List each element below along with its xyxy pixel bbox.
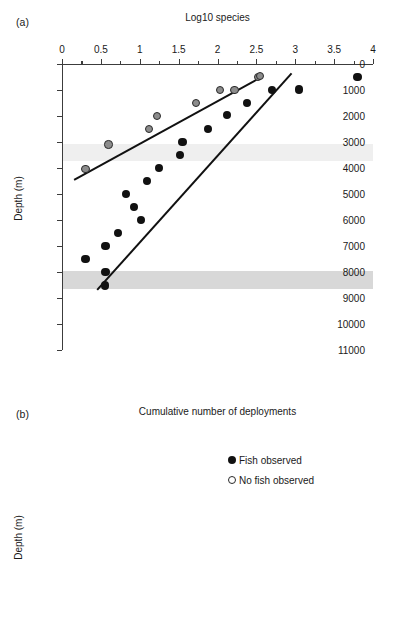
x-tick (295, 59, 296, 64)
x-tick-label: 0.5 (94, 44, 108, 55)
data-point (153, 112, 161, 120)
x-tick-label: 2.5 (249, 44, 263, 55)
legend-label: No fish observed (239, 475, 314, 486)
y-tick-label: 6000 (343, 215, 365, 226)
data-point (114, 229, 122, 237)
y-tick (57, 324, 62, 325)
x-tick-label: 1 (137, 44, 143, 55)
y-tick (57, 220, 62, 221)
y-tick-label: 10000 (337, 319, 365, 330)
y-tick (57, 350, 62, 351)
legend-label: Fish observed (239, 455, 302, 466)
x-tick-minor (198, 61, 199, 65)
y-tick-label: 8000 (343, 267, 365, 278)
y-tick-label: 5000 (343, 189, 365, 200)
data-point (223, 111, 231, 119)
y-tick-label: 11000 (338, 345, 365, 356)
y-tick (57, 194, 62, 195)
x-tick (334, 59, 335, 64)
panel-b-legend: Fish observedNo fish observed (228, 454, 314, 494)
x-tick (179, 59, 180, 64)
y-tick-label: 3000 (343, 137, 365, 148)
y-tick-label: 7000 (343, 241, 365, 252)
legend-item: No fish observed (228, 474, 314, 486)
data-point (230, 86, 238, 94)
y-tick (57, 272, 62, 273)
data-point (216, 86, 224, 94)
data-point (81, 165, 89, 173)
y-tick (57, 116, 62, 117)
y-tick (57, 142, 62, 143)
panel-a-y-axis-label: Depth (m) (13, 159, 24, 239)
x-tick-minor (276, 61, 277, 65)
x-tick (62, 59, 63, 64)
panel-b: (b) Cumulative number of deployments Dep… (0, 400, 399, 640)
panel-a-y-axis-line (62, 64, 63, 350)
x-tick (101, 59, 102, 64)
x-tick-minor (81, 61, 82, 65)
panel-a: (a) Log10 species Depth (m) 00.511.522.5… (0, 0, 399, 400)
y-tick-label: 9000 (343, 293, 365, 304)
x-tick (373, 59, 374, 64)
panel-b-x-axis-title: Cumulative number of deployments (62, 406, 373, 417)
x-tick-minor (237, 61, 238, 65)
data-point (192, 99, 200, 107)
x-tick (218, 59, 219, 64)
y-tick-label: 4000 (343, 163, 365, 174)
data-point (178, 138, 186, 146)
data-point (101, 242, 109, 250)
data-point (130, 203, 138, 211)
x-tick (140, 59, 141, 64)
data-point (295, 85, 303, 93)
data-point (256, 72, 264, 80)
data-point (143, 177, 151, 185)
y-tick (57, 64, 62, 65)
y-tick (57, 90, 62, 91)
panel-a-x-axis-title: Log10 species (62, 12, 373, 23)
legend-item: Fish observed (228, 454, 314, 466)
x-tick-label: 4 (370, 44, 376, 55)
filled-circle-icon (228, 456, 236, 464)
data-point (204, 125, 212, 133)
x-tick-label: 2 (215, 44, 221, 55)
x-tick-label: 3 (292, 44, 298, 55)
y-tick (57, 246, 62, 247)
y-tick-label: 2000 (343, 111, 365, 122)
x-tick-label: 1.5 (172, 44, 186, 55)
panel-a-letter: (a) (16, 16, 29, 28)
data-point (243, 99, 251, 107)
x-tick-label: 3.5 (327, 44, 341, 55)
panel-b-letter: (b) (16, 408, 29, 420)
data-point (155, 164, 163, 172)
panel-a-plot-area: 00.511.522.533.5401000200030004000500060… (62, 64, 373, 350)
data-point (81, 255, 89, 263)
panel-a-x-axis-line (62, 64, 373, 65)
data-point (101, 281, 109, 289)
panel-b-y-axis-label: Depth (m) (13, 498, 24, 578)
data-point (145, 125, 153, 133)
x-tick-minor (120, 61, 121, 65)
x-tick (256, 59, 257, 64)
figure-root: (a) Log10 species Depth (m) 00.511.522.5… (0, 0, 399, 640)
data-point (122, 190, 130, 198)
y-tick (57, 298, 62, 299)
data-point (104, 140, 112, 148)
y-tick-label: 1000 (343, 85, 365, 96)
data-point (268, 86, 276, 94)
x-tick-minor (159, 61, 160, 65)
y-tick (57, 168, 62, 169)
x-tick-minor (354, 61, 355, 65)
open-circle-icon (228, 476, 236, 484)
data-point (353, 73, 361, 81)
x-tick-minor (315, 61, 316, 65)
data-point (137, 216, 145, 224)
x-tick-label: 0 (59, 44, 65, 55)
y-tick-label: 0 (359, 59, 365, 70)
